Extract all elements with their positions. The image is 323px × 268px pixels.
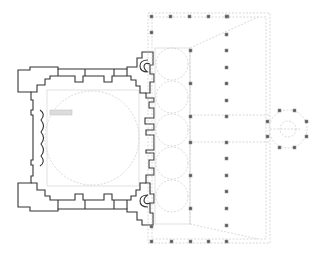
octagonal-fountain: [266, 109, 308, 149]
prayer-hall-dome-outline: [45, 90, 139, 186]
minbar: [50, 110, 72, 115]
courtyard-portico: [148, 13, 300, 243]
prayer-hall-walls: [18, 52, 154, 225]
floor-plan: [0, 0, 323, 268]
